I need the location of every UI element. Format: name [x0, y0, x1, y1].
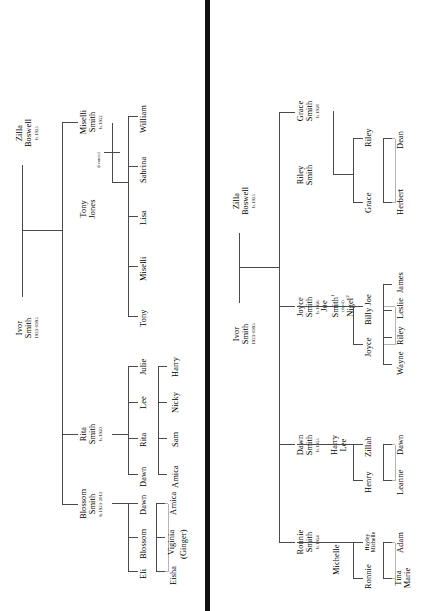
- bottom-ronnie-gc-1: Tina Marie: [395, 561, 413, 595]
- top-rita-gc-2: Sam: [172, 432, 181, 447]
- bottom-riley-marriage: [333, 111, 334, 175]
- dawn-years: b.1955: [315, 415, 320, 475]
- bottom-riley-child-1: Grace: [365, 193, 374, 214]
- top-blossom-child-1: Eli: [140, 569, 149, 579]
- bottom-joyce-child-1: Joyce: [365, 337, 374, 357]
- top-miselli-child-4: Sabrina: [140, 157, 149, 183]
- ivor-years: 1923-1995: [34, 299, 39, 357]
- top-miselli-parent: Miselli Smith b.1952: [80, 91, 103, 153]
- rita-years: b.1950: [98, 405, 103, 463]
- bottom-dawn-gc-spine: [383, 445, 384, 481]
- top-blossom-stem: [62, 504, 78, 505]
- top-blossom-child-stem-1: [128, 571, 138, 572]
- top-miselli-child-stem-1: [128, 316, 138, 317]
- bottom-ronnie-gc-stem-2: [383, 542, 392, 543]
- bottom-joyce-link-b: [383, 306, 395, 307]
- bottom-dawn-child-2: Zillah: [365, 436, 374, 457]
- page-divider: [205, 0, 210, 611]
- bottom-joyce-child-stem-1: [353, 344, 363, 345]
- bottom-riley-gc-spine: [383, 139, 384, 203]
- nigel-sup: 2: [345, 295, 350, 298]
- bottom-riley-drop: [333, 174, 353, 175]
- top-miselli-divorce-note: divorced: [97, 152, 102, 168]
- top-miselli-marriage: [112, 123, 113, 183]
- bottom-dawn-drop: [297, 444, 353, 445]
- top-miselli-child-3: Lisa: [140, 210, 149, 225]
- riley-last: Smith: [306, 147, 315, 203]
- top-rita-child-2: Rita: [140, 433, 149, 447]
- bottom-riley-child-2: Riley: [365, 128, 374, 147]
- bottom-joyce-drop: [297, 306, 353, 307]
- bottom-ronnie-gc-2: Adam: [397, 532, 406, 553]
- top-rita-gc-stem-3: [158, 402, 167, 403]
- bottom-root-ivor: Ivor Smith 1923-1995: [233, 305, 256, 363]
- family-tree-chart-bottom: Ivor Smith 1923-1995 Zilla Boswell b.192…: [225, 13, 425, 603]
- top-root-zilla: Zilla Boswell b.1925: [16, 103, 39, 163]
- family-tree-chart-top: Ivor Smith 1923-1995 Zilla Boswell b.192…: [8, 13, 198, 603]
- top-rita-gc-stem-2: [158, 438, 167, 439]
- top-miselli-child-stem-3: [128, 216, 138, 217]
- top-blossom-child-stem-3: [128, 503, 138, 504]
- tina-second: Marie: [404, 561, 413, 595]
- bottom-ronnie-child-2: Hayley Michelle: [365, 525, 377, 559]
- top-blossom-gc-2b: (Ginger): [180, 529, 189, 559]
- bottom-ronnie-child-stem-1: [353, 578, 363, 579]
- bottom-marriage-line: [239, 233, 240, 303]
- bottom-joyce-gc-stem-3: [383, 310, 392, 311]
- top-miselli-child-stem-2: [128, 266, 138, 267]
- top-rita-gc-stem-4: [158, 366, 167, 367]
- bottom-dawn-child-1: Henry: [365, 472, 374, 493]
- top-miselli-child-5: William: [140, 105, 149, 133]
- rita-last: Smith: [89, 405, 98, 463]
- blossom-years: b.1953-2012: [98, 471, 103, 537]
- bottom-joyce-gc-3: Leslie: [397, 298, 406, 319]
- bottom-root-drop: [239, 267, 279, 268]
- top-rita-child-1: Dawn: [140, 467, 149, 487]
- zilla-last-b: Boswell: [242, 171, 251, 231]
- top-rita-gc-1: Amica: [172, 465, 181, 488]
- hayley-second: Michelle: [371, 525, 377, 559]
- bottom-joyce-child-2: Billy Joe: [365, 294, 374, 325]
- top-miselli-child-stem-4: [128, 166, 138, 167]
- top-blossom-parent: Blossom Smith b.1953-2012: [80, 471, 103, 537]
- grace-years: b.1958: [315, 83, 320, 139]
- bottom-riley-gc-2: Dean: [397, 131, 406, 149]
- top-blossom-gc-stem-2: [156, 537, 165, 538]
- top-miselli-spouse: Tony Jones: [80, 181, 98, 237]
- bottom-ronnie-gc-stem-1: [383, 578, 392, 579]
- joyce-last: Smith: [306, 277, 315, 337]
- top-miselli-child-2: Miselli: [140, 257, 149, 281]
- top-blossom-gc-stem-3: [156, 503, 165, 504]
- bottom-ronnie-drop: [297, 542, 353, 543]
- bottom-dawn-stem: [279, 444, 295, 445]
- bottom-dawn-gc-2: Dawn: [397, 435, 406, 455]
- ivor-years-b: 1923-1995: [251, 305, 256, 363]
- top-blossom-child-3: Dawn: [140, 495, 149, 515]
- joe-sup: 1: [330, 294, 335, 297]
- joe-last: Smith: [331, 297, 340, 318]
- top-miselli-child-spine: [128, 117, 129, 317]
- bottom-joyce-gc-4: James: [397, 272, 406, 293]
- bottom-joyce-link-a: [383, 344, 395, 345]
- top-rita-gc-spine: [158, 367, 159, 475]
- top-blossom-child-2: Blossom: [140, 529, 149, 559]
- bottom-ronnie-child-spine: [353, 543, 354, 579]
- top-blossom-gc-1: Eisha: [170, 566, 179, 585]
- top-rita-child-spine: [128, 367, 129, 475]
- top-miselli-child-1: Tony: [140, 310, 149, 328]
- bottom-riley-gc-1: Herbert: [397, 189, 406, 215]
- top-blossom-gc-3: Arnica: [170, 492, 179, 515]
- zilla-years-b: b.1925: [251, 171, 256, 231]
- zilla-years: b.1925: [34, 103, 39, 163]
- top-blossom-child-stem-2: [128, 537, 138, 538]
- top-marriage-line: [22, 165, 23, 297]
- bottom-ronnie-child-stem-2: [353, 542, 363, 543]
- bottom-joyce-gc-stem-1: [383, 364, 392, 365]
- harry-last: Lee: [340, 417, 349, 473]
- bottom-dawn-child-stem-2: [353, 444, 363, 445]
- miselli-last: Smith: [89, 91, 98, 153]
- bottom-joyce-child-stem-2: [353, 306, 363, 307]
- top-rita-gc-4: Harry: [172, 357, 181, 377]
- bottom-ronnie-gc-spine: [383, 543, 384, 579]
- bottom-riley-gc-stem-1: [383, 202, 392, 203]
